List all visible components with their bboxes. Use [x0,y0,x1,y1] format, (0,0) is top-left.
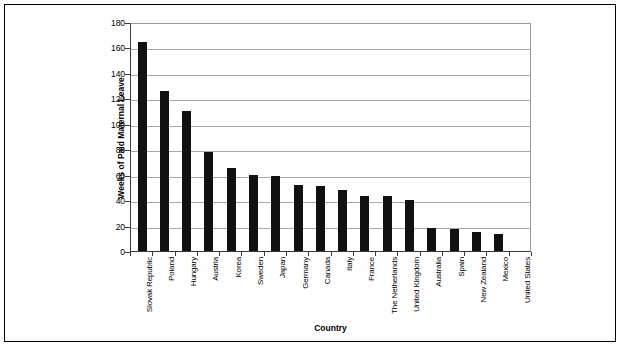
y-axis-tick-mark [125,125,130,126]
y-axis-tick-mark [125,252,130,253]
x-axis-tick-label: Spain [457,257,466,277]
x-axis-tick-label: Hungary [189,257,198,286]
x-axis-tick-mark [197,252,198,256]
gridline [131,100,530,101]
x-axis-tick-mark [486,252,487,256]
y-axis-tick-mark [125,150,130,151]
x-axis-tick-label: Slovak Republic [145,257,154,312]
x-axis-tick-label: The Netherlands [390,257,399,314]
bar[interactable] [227,168,236,251]
y-axis-tick-label: 40 [116,197,125,206]
x-axis-tick-label: Mexico [501,257,510,281]
gridline [131,49,530,50]
y-axis-tick-mark [125,74,130,75]
x-axis-tick-mark [442,252,443,256]
y-axis-tick-label: 120 [111,95,125,104]
x-axis-tick-label: Poland [167,257,176,281]
bar[interactable] [204,152,213,251]
y-axis-tick-label: 60 [116,171,125,180]
x-axis-tick-mark [531,252,532,256]
x-axis-tick-label: Sweden [256,257,265,285]
x-axis-tick-mark [331,252,332,256]
x-axis-tick-mark [130,252,131,256]
y-axis-tick-label: 140 [111,69,125,78]
x-axis-tick-label: Korea [234,257,243,278]
x-axis-tick-label: Germany [301,257,310,289]
gridline [131,75,530,76]
x-axis-tick-mark [241,252,242,256]
x-axis-tick-mark [464,252,465,256]
bar[interactable] [450,229,459,251]
bar[interactable] [294,185,303,251]
y-axis-tick-labels: 020406080100120140160180 [100,23,125,252]
x-axis-tick-label: Canada [323,257,332,284]
bar[interactable] [182,111,191,251]
bar[interactable] [316,186,325,251]
x-axis-tick-mark [264,252,265,256]
x-axis-tick-mark [152,252,153,256]
x-axis-tick-label: United States [523,257,532,303]
bar[interactable] [138,42,147,251]
y-axis-tick-mark [125,176,130,177]
x-axis-tick-label: Italy [345,257,354,271]
y-axis-tick-label: 80 [116,146,125,155]
x-axis-tick-mark [420,252,421,256]
figure-frame: Weeks of Paid Maternal Leave 02040608010… [4,4,616,342]
bar[interactable] [360,196,369,251]
y-axis-tick-label: 100 [111,120,125,129]
x-axis-tick-label: Japan [278,257,287,278]
x-axis-tick-label: United Kingdom [412,257,421,312]
x-axis-tick-mark [286,252,287,256]
y-axis-tick-label: 160 [111,44,125,53]
y-axis-tick-mark [125,201,130,202]
bar-chart: Weeks of Paid Maternal Leave 02040608010… [5,5,617,343]
x-axis-tick-mark [397,252,398,256]
bar[interactable] [271,176,280,251]
x-axis-tick-mark [353,252,354,256]
plot-area [130,23,531,252]
x-axis-tick-label: New Zealand [479,257,488,303]
x-axis-tick-label: France [367,257,376,281]
x-axis-tick-mark [219,252,220,256]
bar[interactable] [249,175,258,251]
x-axis-tick-mark [308,252,309,256]
bar[interactable] [160,91,169,251]
x-axis-tick-labels: Slovak RepublicPolandHungaryAustriaKorea… [130,257,531,319]
y-axis-tick-label: 20 [116,222,125,231]
y-axis-tick-mark [125,48,130,49]
y-axis-tick-mark [125,23,130,24]
x-axis-tick-mark [175,252,176,256]
bar[interactable] [383,196,392,251]
x-axis-title: Country [130,323,531,333]
y-axis-tick-mark [125,227,130,228]
bar[interactable] [494,234,503,251]
y-axis-tick-label: 180 [111,19,125,28]
bar[interactable] [472,232,481,251]
bar[interactable] [427,228,436,251]
bar[interactable] [338,190,347,251]
bar[interactable] [405,200,414,251]
x-axis-tick-mark [375,252,376,256]
x-axis-tick-mark [509,252,510,256]
x-axis-tick-label: Austria [211,257,220,281]
x-axis-tick-label: Australia [434,257,443,287]
y-axis-title-container: Weeks of Paid Maternal Leave [83,23,97,252]
y-axis-tick-mark [125,99,130,100]
